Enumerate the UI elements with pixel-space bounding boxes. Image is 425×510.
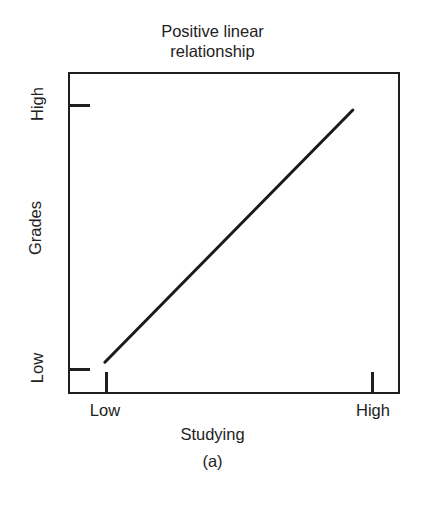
x-axis-tick-label-high: High	[333, 401, 413, 420]
plot-area	[68, 72, 400, 394]
figure-container: Positive linear relationship High Grades…	[0, 0, 425, 510]
x-axis-tick-label-low: Low	[65, 401, 145, 420]
figure-caption: (a)	[0, 452, 425, 471]
y-axis-title: Grades	[24, 178, 46, 278]
series-line-positive-linear	[105, 110, 353, 362]
data-line-svg	[70, 74, 402, 396]
y-axis-tick-label-low: Low	[26, 338, 48, 398]
chart-title: Positive linear relationship	[0, 21, 425, 61]
x-axis-title: Studying	[0, 425, 425, 444]
y-axis-tick-label-high: High	[26, 74, 48, 134]
